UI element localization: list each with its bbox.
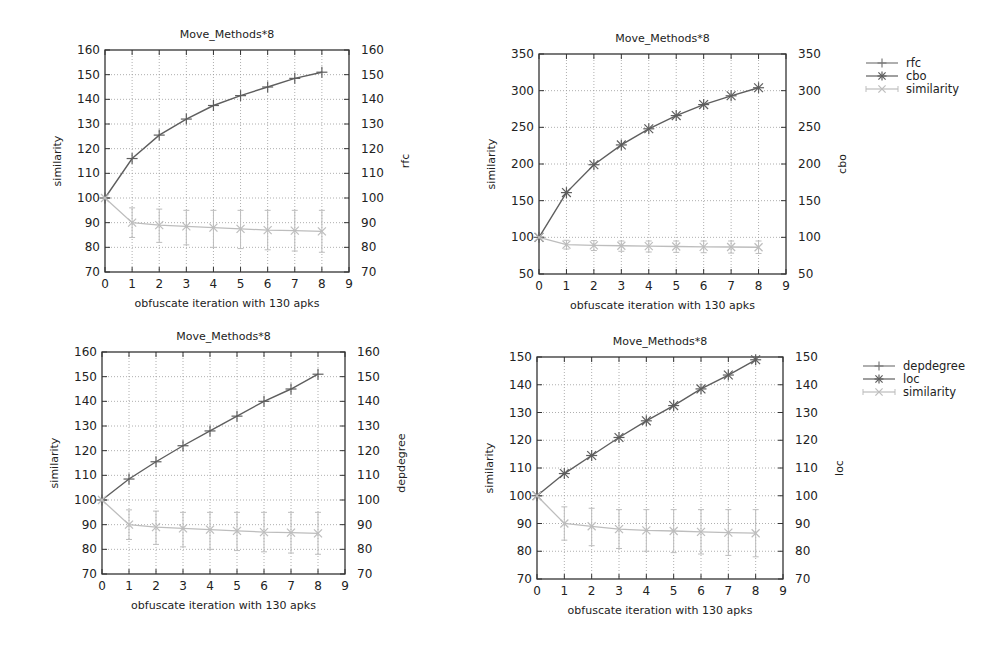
y2-tick-label: 120 (361, 142, 384, 156)
y2-axis-label: loc (833, 460, 846, 476)
x-tick-label: 3 (183, 277, 191, 291)
y2-tick-label: 300 (798, 84, 821, 98)
x-tick-label: 6 (260, 579, 268, 593)
plot-frame (102, 352, 345, 574)
x-tick-label: 8 (755, 279, 763, 293)
y2-tick-label: 110 (361, 166, 384, 180)
x-tick-label: 2 (590, 279, 598, 293)
y-tick-label: 160 (74, 345, 97, 359)
y-tick-label: 100 (509, 489, 532, 503)
y-tick-label: 70 (85, 265, 100, 279)
y2-tick-label: 80 (361, 240, 376, 254)
x-tick-label: 4 (643, 584, 651, 598)
legend-label: similarity (903, 385, 956, 399)
y-tick-label: 70 (82, 567, 97, 581)
x-tick-label: 4 (645, 279, 653, 293)
y-tick-label: 70 (517, 572, 532, 586)
axis-ticks: 0123456789708090100110120130140150708090… (509, 350, 818, 598)
legend-label: cbo (906, 69, 927, 83)
y-tick-label: 110 (74, 468, 97, 482)
y-tick-label: 90 (517, 517, 532, 531)
legend-item-cbo: cbo (866, 69, 927, 83)
y-tick-label: 80 (85, 240, 100, 254)
x-tick-label: 5 (672, 279, 680, 293)
y-axis-label: similarity (48, 437, 61, 488)
series-similarity (101, 194, 326, 252)
x-tick-label: 1 (561, 584, 569, 598)
x-tick-label: 1 (128, 277, 136, 291)
x-tick-label: 8 (318, 277, 326, 291)
x-tick-label: 2 (155, 277, 163, 291)
y-tick-label: 120 (74, 444, 97, 458)
y2-axis-label: rfc (399, 154, 412, 168)
x-tick-label: 5 (233, 579, 241, 593)
series-similarity (535, 233, 763, 253)
y2-axis-label: depdegree (395, 433, 408, 493)
legend-item-similarity: similarity (863, 385, 956, 399)
y-tick-label: 140 (74, 394, 97, 408)
y-tick-label: 140 (509, 378, 532, 392)
y-tick-label: 150 (74, 370, 97, 384)
x-tick-label: 8 (314, 579, 322, 593)
y2-tick-label: 70 (357, 567, 372, 581)
x-tick-label: 1 (563, 279, 571, 293)
figure-grid: 0123456789708090100110120130140150160708… (0, 0, 1005, 645)
grid-lines (539, 54, 786, 274)
x-tick-label: 4 (206, 579, 214, 593)
y-tick-label: 50 (519, 267, 534, 281)
y2-tick-label: 150 (798, 194, 821, 208)
legend-label: depdegree (903, 359, 965, 373)
y2-tick-label: 100 (357, 493, 380, 507)
x-tick-label: 3 (618, 279, 626, 293)
chart-title: Move_Methods*8 (615, 32, 709, 45)
chart-bottom-left: 0123456789708090100110120130140150160708… (48, 330, 408, 612)
y-tick-label: 100 (74, 493, 97, 507)
x-tick-label: 7 (727, 279, 735, 293)
x-tick-label: 8 (752, 584, 760, 598)
y-axis-label: similarity (485, 138, 498, 189)
x-tick-label: 0 (101, 277, 109, 291)
x-tick-label: 0 (533, 584, 541, 598)
y-tick-label: 140 (77, 92, 100, 106)
y-tick-label: 110 (77, 166, 100, 180)
y-tick-label: 90 (85, 216, 100, 230)
y2-tick-label: 90 (361, 216, 376, 230)
y-tick-label: 130 (509, 406, 532, 420)
legend-label: similarity (906, 82, 959, 96)
charts-canvas: 0123456789708090100110120130140150160708… (0, 0, 1005, 645)
y2-tick-label: 90 (795, 517, 810, 531)
legend-item-loc: loc (863, 372, 920, 386)
y2-tick-label: 140 (361, 92, 384, 106)
axis-ticks: 0123456789708090100110120130140150160708… (74, 345, 380, 593)
x-tick-label: 7 (725, 584, 733, 598)
chart-bottom-right: 0123456789708090100110120130140150708090… (483, 335, 965, 617)
x-tick-label: 9 (779, 584, 787, 598)
x-tick-label: 2 (152, 579, 160, 593)
grid-lines (102, 352, 345, 574)
x-tick-label: 2 (588, 584, 596, 598)
y2-tick-label: 50 (798, 267, 813, 281)
y-axis-label: similarity (51, 135, 64, 186)
chart-legend: rfccbosimilarity (866, 56, 959, 96)
legend-label: rfc (906, 56, 921, 70)
y2-tick-label: 110 (795, 461, 818, 475)
x-axis-label: obfuscate iteration with 130 apks (131, 599, 316, 612)
chart-title: Move_Methods*8 (176, 330, 270, 343)
y2-tick-label: 120 (357, 444, 380, 458)
axis-ticks: 0123456789708090100110120130140150160708… (77, 43, 384, 291)
y-tick-label: 130 (77, 117, 100, 131)
x-tick-label: 5 (670, 584, 678, 598)
chart-top-right: 0123456789501001502002503003505010015020… (485, 32, 959, 312)
y2-tick-label: 130 (361, 117, 384, 131)
y-tick-label: 200 (511, 157, 534, 171)
plot-frame (105, 50, 349, 272)
y2-tick-label: 80 (795, 544, 810, 558)
legend-label: loc (903, 372, 920, 386)
y2-tick-label: 200 (798, 157, 821, 171)
chart-title: Move_Methods*8 (180, 28, 274, 41)
y-tick-label: 120 (509, 433, 532, 447)
y-tick-label: 160 (77, 43, 100, 57)
y2-tick-label: 160 (357, 345, 380, 359)
y-tick-label: 100 (511, 230, 534, 244)
y2-tick-label: 140 (795, 378, 818, 392)
